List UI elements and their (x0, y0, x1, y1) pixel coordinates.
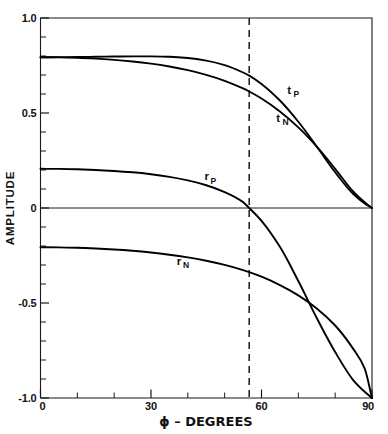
curve-label-base: t (287, 84, 291, 96)
curve-label-tP: tP (287, 84, 299, 99)
curve-label-base: r (177, 255, 182, 267)
curve-label-subscript: N (282, 117, 288, 127)
x-tick-label: 60 (256, 400, 268, 412)
x-axis-title: ϕ – DEGREES (159, 414, 252, 429)
curve-label-subscript: N (183, 260, 189, 270)
chart-canvas: 1.00.50-0.5-1.0 0306090 tPtNrPrN AMPLITU… (0, 0, 388, 434)
y-axis-title: AMPLITUDE (4, 171, 16, 245)
curve-r-n (41, 247, 373, 398)
x-tick-label: 30 (145, 400, 157, 412)
curve-label-subscript: P (211, 176, 217, 186)
y-tick-label: -0.5 (18, 297, 36, 309)
y-axis-title-group: AMPLITUDE (4, 171, 16, 245)
curve-label-base: r (204, 170, 209, 182)
fresnel-amplitude-chart: 1.00.50-0.5-1.0 0306090 tPtNrPrN AMPLITU… (0, 0, 388, 434)
x-axis-tick-labels: 0306090 (40, 400, 375, 412)
x-axis-title-group: ϕ – DEGREES (159, 414, 252, 429)
y-axis-tick-labels: 1.00.50-0.5-1.0 (18, 12, 36, 404)
y-tick-label: 0 (31, 202, 37, 214)
y-tick-label: 1.0 (22, 12, 37, 24)
x-tick-label: 90 (362, 400, 374, 412)
curve-r-p (41, 169, 373, 398)
x-axis-ticks (41, 390, 373, 399)
curve-label-rP: rP (204, 170, 216, 185)
y-tick-label: -1.0 (18, 392, 36, 404)
y-tick-label: 0.5 (22, 107, 37, 119)
curve-label-subscript: P (293, 89, 299, 99)
x-tick-label: 0 (40, 400, 46, 412)
data-curves (41, 56, 373, 398)
curve-label-base: t (276, 112, 280, 124)
